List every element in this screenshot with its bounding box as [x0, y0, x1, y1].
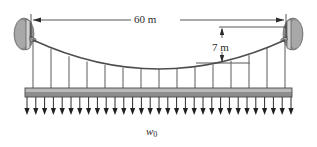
hanger-group — [33, 40, 285, 90]
distributed-load-arrows — [24, 97, 293, 115]
cable-curve — [33, 40, 285, 69]
deck-beam — [25, 88, 292, 97]
distributed-load-label: w0 — [146, 126, 157, 139]
sag-dimension-label: 7 m — [212, 42, 229, 53]
suspension-cable-diagram: 60 m 7 m w0 — [0, 0, 317, 147]
right-anchor-icon — [281, 18, 303, 50]
diagram-canvas — [0, 0, 317, 147]
span-dimension-label: 60 m — [134, 14, 156, 25]
span-dimension-icon — [31, 14, 286, 38]
load-subscript: 0 — [153, 130, 157, 139]
